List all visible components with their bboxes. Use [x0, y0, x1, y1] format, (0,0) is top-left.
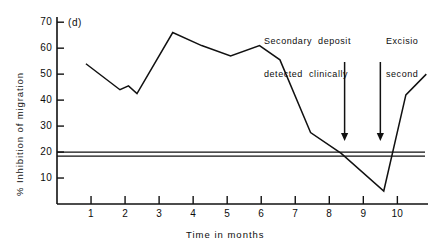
annotation-excision-second: Excisio second	[386, 14, 418, 102]
annotation-secondary-deposit-line1: Secondary deposit	[264, 36, 351, 47]
annotation-secondary-deposit-line2: detected clinically	[264, 69, 351, 80]
x-tick-label: 8	[319, 208, 339, 219]
y-tick-label: 50	[26, 68, 52, 79]
y-axis-title: % Inhibition of migration	[14, 72, 25, 196]
y-axis-ticks	[57, 22, 64, 178]
data-series-line	[86, 33, 426, 191]
y-tick-label: 10	[26, 172, 52, 183]
reference-lines	[57, 152, 425, 156]
y-tick-label: 30	[26, 120, 52, 131]
y-tick-label: 70	[26, 16, 52, 27]
x-tick-label: 3	[149, 208, 169, 219]
x-tick-label: 10	[387, 208, 407, 219]
annotation-excision-second-line1: Excisio	[386, 36, 418, 47]
x-axis-ticks	[91, 196, 397, 204]
panel-label: (d)	[68, 17, 82, 28]
y-tick-label: 60	[26, 42, 52, 53]
annotation-excision-second-line2: second	[386, 69, 418, 80]
x-axis-title: Time in months	[186, 229, 265, 240]
y-tick-label: 40	[26, 94, 52, 105]
figure-panel-d: (d) % Inhibition of migration Time in mo…	[0, 0, 432, 251]
y-tick-label: 20	[26, 146, 52, 157]
annotation-secondary-deposit: Secondary deposit detected clinically	[264, 14, 351, 102]
arrow-excision-second	[377, 62, 384, 141]
x-tick-label: 7	[285, 208, 305, 219]
x-tick-label: 1	[81, 208, 101, 219]
x-tick-label: 2	[115, 208, 135, 219]
x-tick-label: 5	[217, 208, 237, 219]
x-tick-label: 4	[183, 208, 203, 219]
x-tick-label: 9	[353, 208, 373, 219]
x-tick-label: 6	[251, 208, 271, 219]
